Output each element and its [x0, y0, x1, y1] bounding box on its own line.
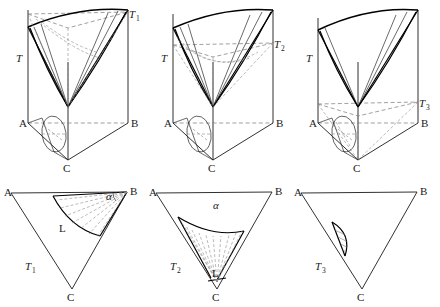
label-T3-top-right: T — [419, 97, 426, 109]
label-C-top-middle: C — [208, 162, 215, 174]
label-B-top-middle: B — [276, 117, 283, 129]
figure-svg: A B C T T 1 A B C T — [0, 0, 440, 307]
panel-bottom-right: A B C T 3 — [294, 185, 427, 303]
label-L-bottom-middle: L — [212, 267, 219, 279]
label-T2-bottom-middle: T — [170, 260, 177, 272]
label-T3-sub-top-right: 3 — [426, 103, 430, 112]
label-alpha-bottom-middle: α — [213, 199, 219, 211]
label-A-top-middle: A — [164, 117, 172, 129]
label-A-bottom-left: A — [4, 186, 12, 198]
label-L-bottom-left: L — [59, 222, 66, 234]
label-C-bottom-right: C — [357, 291, 364, 303]
panel-top-left: A B C T T 1 — [16, 8, 140, 174]
label-B-bottom-middle: B — [275, 185, 282, 197]
label-T1-bottom-left: T — [25, 260, 32, 272]
label-T1-sub-bottom-left: 1 — [32, 266, 36, 275]
label-C-top-left: C — [63, 162, 70, 174]
label-C-top-right: C — [353, 162, 360, 174]
label-B-bottom-right: B — [420, 185, 427, 197]
label-T2-top-middle: T — [274, 38, 281, 50]
label-T1-top-left: T — [129, 8, 136, 20]
label-C-bottom-middle: C — [212, 291, 219, 303]
panel-top-right: A B C T T 3 — [306, 9, 430, 174]
label-T2-sub-top-middle: 2 — [281, 44, 285, 53]
label-C-bottom-left: C — [67, 291, 74, 303]
label-alpha-bottom-left: α — [106, 190, 112, 202]
label-T3-bottom-right: T — [315, 260, 322, 272]
label-T3-sub-bottom-right: 3 — [322, 266, 326, 275]
sector-rays-bottom-left — [57, 192, 127, 237]
panel-bottom-left: A B C L α T 1 — [4, 185, 137, 303]
label-T-top-right: T — [306, 52, 313, 64]
label-T1-sub-top-left: 1 — [136, 14, 140, 23]
hatching-bottom-right — [326, 216, 352, 257]
label-A-top-right: A — [309, 117, 317, 129]
label-T2-sub-bottom-middle: 2 — [177, 266, 181, 275]
figure-root: A B C T T 1 A B C T — [0, 0, 440, 307]
label-T-top-left: T — [16, 52, 23, 64]
label-B-top-right: B — [421, 117, 428, 129]
panel-bottom-middle: A B C L α T 2 — [149, 185, 282, 303]
label-A-bottom-middle: A — [149, 186, 157, 198]
label-A-bottom-right: A — [294, 186, 302, 198]
label-A-top-left: A — [19, 117, 27, 129]
label-B-top-left: B — [131, 117, 138, 129]
label-B-bottom-left: B — [130, 185, 137, 197]
label-T-top-middle: T — [161, 52, 168, 64]
panel-top-middle: A B C T T 2 — [161, 9, 285, 174]
